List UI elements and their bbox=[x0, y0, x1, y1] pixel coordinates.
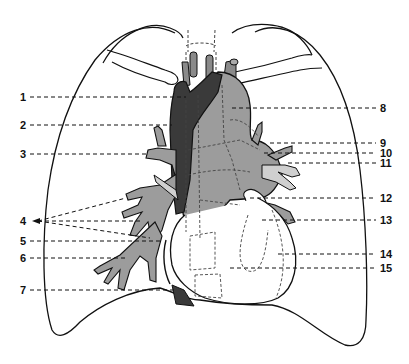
label-5: 5 bbox=[12, 236, 26, 247]
left-clavicle-lower bbox=[236, 68, 322, 84]
label-1: 1 bbox=[12, 92, 26, 103]
vessel-left-stub-end bbox=[230, 59, 238, 65]
left-scapula-curve bbox=[232, 24, 312, 55]
label-6: 6 bbox=[12, 253, 26, 264]
right-hilar-vessels bbox=[94, 126, 176, 290]
label-12: 12 bbox=[380, 193, 392, 204]
label-11: 11 bbox=[380, 158, 392, 169]
chest-anatomy-diagram bbox=[0, 0, 409, 364]
vessel-stub-1 bbox=[190, 52, 197, 77]
right-heart-border bbox=[164, 240, 170, 284]
label-15: 15 bbox=[380, 263, 392, 274]
label-2: 2 bbox=[12, 120, 26, 131]
label-4-arrowhead bbox=[32, 218, 40, 224]
label-13: 13 bbox=[380, 215, 392, 226]
label-3: 3 bbox=[12, 149, 26, 160]
label-7: 7 bbox=[12, 285, 26, 296]
label-4: 4 bbox=[12, 216, 26, 227]
label-14: 14 bbox=[380, 249, 392, 260]
right-clavicle bbox=[107, 50, 178, 84]
label-8: 8 bbox=[380, 103, 386, 114]
